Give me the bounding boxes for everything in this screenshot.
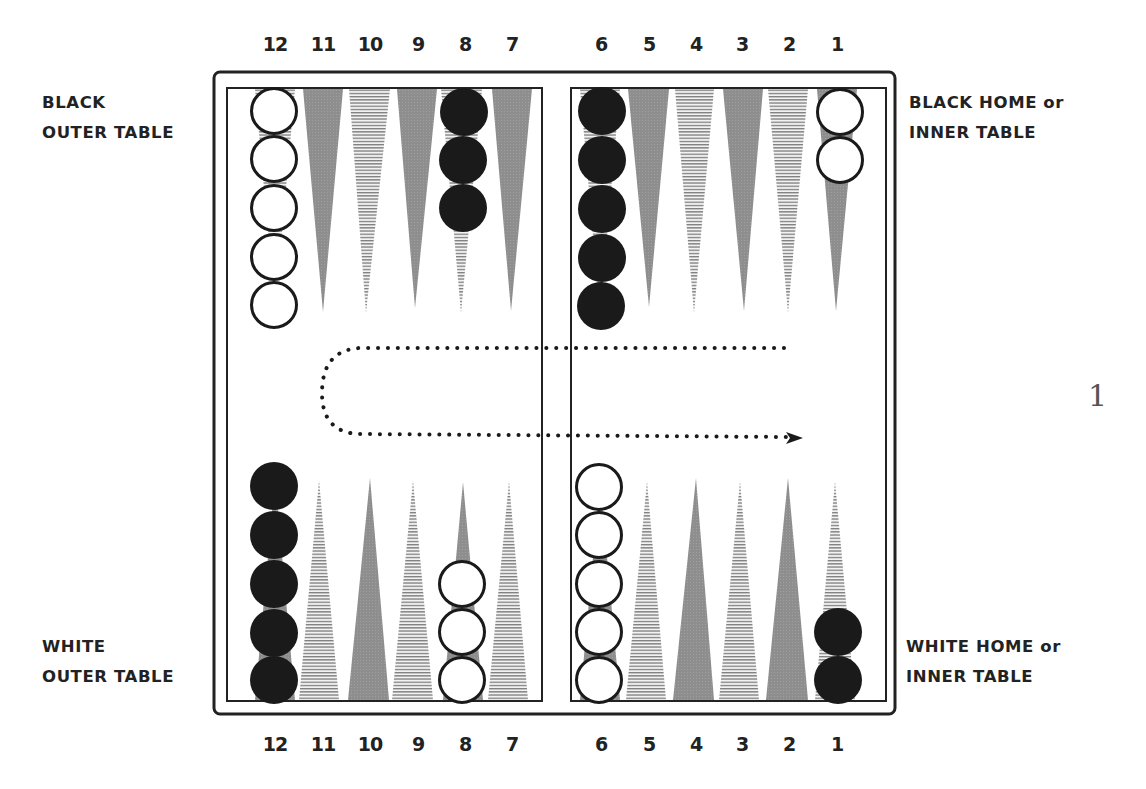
white-checker [252, 235, 297, 280]
white-checker [252, 89, 297, 134]
black-checker [439, 136, 487, 184]
backgammon-board [0, 0, 1146, 789]
black-checker [250, 462, 298, 510]
white-checker [818, 138, 863, 183]
white-checker [252, 137, 297, 182]
black-checker [250, 511, 298, 559]
white-checker [252, 186, 297, 231]
white-checker [440, 562, 485, 607]
black-checker [250, 609, 298, 657]
white-checker [577, 562, 622, 607]
black-checker [439, 184, 487, 232]
white-checker [577, 465, 622, 510]
white-checker [577, 658, 622, 703]
black-checker [578, 87, 626, 135]
black-checker [577, 282, 625, 330]
white-checker [440, 658, 485, 703]
white-checker [577, 610, 622, 655]
black-checker [440, 88, 488, 136]
black-checker [250, 560, 298, 608]
white-checker [577, 513, 622, 558]
white-checker [818, 90, 863, 135]
white-checker [252, 283, 297, 328]
black-checker [814, 608, 862, 656]
black-checker [250, 656, 298, 704]
black-checker [578, 234, 626, 282]
black-checker [578, 185, 626, 233]
white-checker [440, 610, 485, 655]
black-checker [814, 656, 862, 704]
black-checker [578, 136, 626, 184]
